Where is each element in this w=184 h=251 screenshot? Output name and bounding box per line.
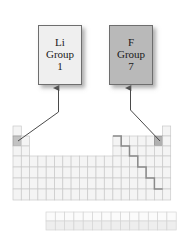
table-cell [13, 167, 21, 178]
arrow-f [131, 88, 161, 141]
table-cell [38, 178, 46, 189]
table-cell [113, 136, 121, 146]
callout-f-group-number: 7 [128, 61, 134, 73]
table-cell [88, 167, 96, 178]
fblock-cell [65, 212, 74, 221]
table-cell [46, 156, 54, 167]
table-cell [154, 178, 162, 189]
table-cell [121, 189, 129, 200]
table-cell [130, 156, 138, 167]
table-cell [30, 167, 38, 178]
table-cell [146, 136, 154, 146]
periodic-table-diagram: Li Group 1 F Group 7 [0, 0, 184, 251]
fblock-cell [111, 212, 120, 221]
table-cell [79, 167, 87, 178]
table-cell [113, 167, 121, 178]
table-cell [38, 167, 46, 178]
table-cell [113, 146, 121, 156]
table-cell [163, 189, 171, 200]
fblock-cell [93, 212, 102, 221]
table-cell [55, 178, 63, 189]
fblock-cell [139, 221, 148, 230]
fblock-cell [83, 221, 92, 230]
table-cell [13, 146, 21, 156]
table-cell [38, 156, 46, 167]
table-cell [163, 178, 171, 189]
table-cell [88, 189, 96, 200]
table-cell [104, 178, 113, 189]
f-block-grid [46, 212, 176, 230]
table-cell [146, 156, 154, 167]
table-cell [113, 189, 121, 200]
table-cell [121, 178, 129, 189]
table-cell [163, 136, 171, 146]
fblock-cell [46, 212, 55, 221]
fblock-cell [158, 212, 167, 221]
table-cell [21, 178, 29, 189]
fblock-cell [111, 221, 120, 230]
table-cell [63, 178, 71, 189]
table-cell [71, 178, 79, 189]
table-cell [71, 189, 79, 200]
table-cell [96, 156, 104, 167]
table-cell [104, 156, 113, 167]
table-cell [138, 146, 146, 156]
fblock-cell [74, 221, 83, 230]
table-cell [121, 136, 129, 146]
table-cell [96, 178, 104, 189]
table-cell [121, 156, 129, 167]
table-cell [138, 156, 146, 167]
table-cell [130, 167, 138, 178]
callout-box-f[interactable]: F Group 7 [109, 25, 153, 85]
highlighted-cell-li[interactable] [13, 136, 21, 146]
table-cell [121, 167, 129, 178]
fblock-cell [130, 212, 139, 221]
table-cell [163, 167, 171, 178]
table-cell [154, 167, 162, 178]
fblock-cell [120, 212, 129, 221]
table-cell [38, 189, 46, 200]
table-cell [46, 189, 54, 200]
table-cell [79, 189, 87, 200]
table-cell [71, 167, 79, 178]
table-cell [163, 156, 171, 167]
fblock-cell [148, 221, 157, 230]
table-cell [96, 189, 104, 200]
table-cell [138, 178, 146, 189]
table-cell [104, 189, 113, 200]
table-cell [154, 189, 162, 200]
table-cell [163, 146, 171, 156]
table-cell [21, 156, 29, 167]
table-cell [13, 178, 21, 189]
table-cell [46, 167, 54, 178]
table-cell [146, 167, 154, 178]
fblock-cell [167, 212, 176, 221]
table-cell [55, 189, 63, 200]
fblock-cell [120, 221, 129, 230]
table-cell [21, 167, 29, 178]
highlighted-cell-f[interactable] [154, 136, 162, 146]
table-cell [130, 136, 138, 146]
table-cell [146, 178, 154, 189]
callout-li-group-number: 1 [57, 61, 63, 73]
table-cell [104, 167, 113, 178]
fblock-cell [55, 221, 64, 230]
table-cell [154, 156, 162, 167]
table-cell [46, 178, 54, 189]
fblock-cell [55, 212, 64, 221]
fblock-cell [74, 212, 83, 221]
table-cell [162, 126, 170, 136]
fblock-cell [65, 221, 74, 230]
table-cell [79, 156, 87, 167]
fblock-cell [93, 221, 102, 230]
table-cell [88, 156, 96, 167]
table-cell [21, 189, 29, 200]
table-cell [63, 167, 71, 178]
table-cell [138, 167, 146, 178]
diagram-canvas [0, 0, 184, 251]
fblock-cell [139, 212, 148, 221]
table-cell [30, 156, 38, 167]
table-cell [113, 178, 121, 189]
table-cell [146, 189, 154, 200]
callout-box-li[interactable]: Li Group 1 [38, 25, 82, 85]
